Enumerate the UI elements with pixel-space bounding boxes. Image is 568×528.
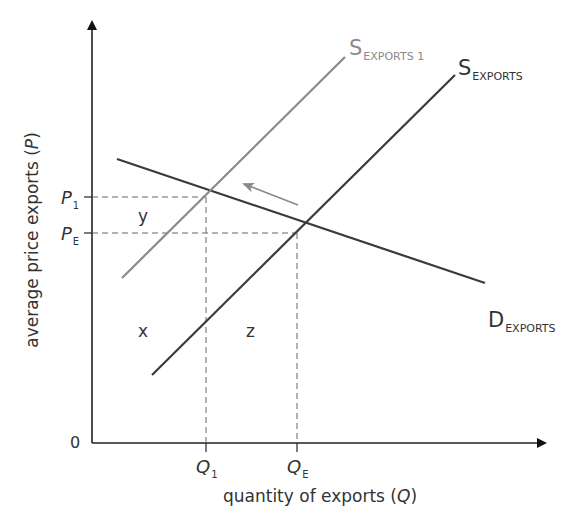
supply-label: SEXPORTS — [458, 56, 523, 83]
demand-curve — [117, 159, 485, 283]
supply-shifted-label: SEXPORTS 1 — [349, 36, 424, 63]
region-y-label: y — [138, 206, 148, 226]
q1-label: Q1 — [196, 456, 218, 480]
pe-label: PE — [61, 223, 79, 247]
shift-arrow-icon — [244, 184, 298, 205]
origin-label: 0 — [70, 433, 80, 452]
demand-label: DEXPORTS — [488, 308, 556, 335]
region-x-label: x — [138, 321, 148, 341]
supply-curve — [152, 75, 455, 375]
qe-label: QE — [287, 456, 309, 480]
x-axis-title: quantity of exports (Q) — [223, 486, 417, 506]
region-z-label: z — [246, 321, 255, 341]
export-supply-demand-diagram: SEXPORTS 1 SEXPORTS DEXPORTS P1 PE 0 Q1 … — [0, 0, 568, 528]
p1-label: P1 — [61, 187, 79, 211]
y-axis-title: average price exports (P) — [22, 132, 42, 348]
supply-shifted-curve — [122, 57, 345, 278]
